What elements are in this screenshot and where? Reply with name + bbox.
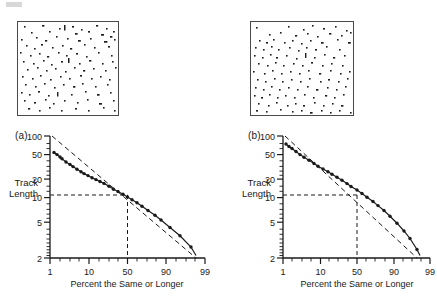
- y-axis-title-line2: Length: [9, 188, 38, 199]
- panel-b: (b): [217, 0, 437, 296]
- y-ticks-major-a: [44, 136, 50, 258]
- x-tick-label: 90: [161, 267, 171, 277]
- y-tick-label: 5: [37, 218, 42, 228]
- y-tick-label: 50: [32, 150, 42, 160]
- data-points-b: [284, 142, 418, 251]
- x-tick-label: 1: [280, 267, 285, 277]
- x-tick-label: 50: [122, 267, 132, 277]
- x-tick-label: 10: [315, 267, 325, 277]
- x-axis-title-b: Percent the Same or Longer: [300, 279, 413, 289]
- y-tick-label: 100: [27, 132, 42, 142]
- x-axis-title-a: Percent the Same or Longer: [70, 279, 183, 289]
- panel-a: (a): [0, 0, 220, 296]
- x-tick-label: 90: [389, 267, 399, 277]
- plot-b: 100 50 20 10 5 2: [217, 124, 437, 296]
- x-ticks-major-b: [283, 258, 430, 264]
- y-tick-label: 50: [265, 150, 275, 160]
- y-tick-label: 2: [37, 254, 42, 264]
- y-tick-label: 5: [270, 218, 275, 228]
- micrograph-b: [250, 21, 354, 116]
- y-axis-title-line2-b: Length: [242, 188, 271, 199]
- y-ticks-major-b: [277, 136, 283, 258]
- y-tick-label: 2: [270, 254, 275, 264]
- x-tick-label: 10: [84, 267, 94, 277]
- scan-artifact: [6, 2, 22, 7]
- x-ticks-major-a: [50, 258, 205, 264]
- reference-line-a: [52, 136, 196, 258]
- reference-line-b: [285, 136, 417, 258]
- x-tick-labels-a: 1 10 50 90 99: [47, 267, 210, 277]
- y-axis-title-line1-b: Track: [248, 177, 272, 188]
- plot-a: 100 50 20 10 5 2: [0, 124, 220, 296]
- data-points-a: [52, 151, 192, 249]
- x-tick-label: 99: [425, 267, 435, 277]
- y-tick-label: 100: [260, 132, 275, 142]
- x-tick-labels-b: 1 10 50 90 99: [280, 267, 435, 277]
- x-tick-label: 50: [352, 267, 362, 277]
- figure: (a): [0, 0, 437, 296]
- data-line-a: [54, 153, 196, 256]
- x-tick-label: 99: [200, 267, 210, 277]
- y-axis-title-line1: Track: [15, 177, 39, 188]
- x-tick-label: 1: [47, 267, 52, 277]
- data-line-b: [286, 144, 420, 256]
- micrograph-a: [17, 21, 119, 116]
